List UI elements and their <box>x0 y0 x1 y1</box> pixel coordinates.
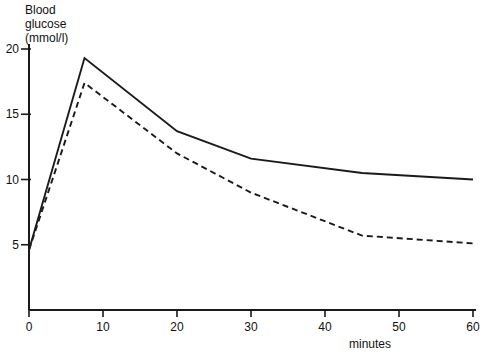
chart-background <box>0 0 480 355</box>
x-tick-label: 40 <box>318 320 332 334</box>
x-axis-label: minutes <box>349 337 391 351</box>
x-tick-label: 30 <box>244 320 258 334</box>
x-tick-label: 10 <box>96 320 110 334</box>
y-tick-label: 20 <box>6 42 20 56</box>
y-axis-label-line: Blood <box>25 3 56 17</box>
x-tick-label: 20 <box>170 320 184 334</box>
chart-canvas: 51015200102030405060minutesBloodglucose(… <box>0 0 480 355</box>
y-axis-label-line: glucose <box>25 17 67 31</box>
y-axis-label-line: (mmol/l) <box>25 31 68 45</box>
y-tick-label: 5 <box>12 238 19 252</box>
x-tick-label: 0 <box>26 320 33 334</box>
y-tick-label: 15 <box>6 107 20 121</box>
blood-glucose-chart: 51015200102030405060minutesBloodglucose(… <box>0 0 480 355</box>
x-tick-label: 60 <box>466 320 480 334</box>
x-tick-label: 50 <box>392 320 406 334</box>
y-tick-label: 10 <box>6 173 20 187</box>
